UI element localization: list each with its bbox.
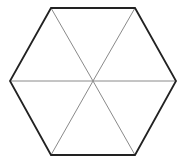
spoke-line-4 — [93, 81, 135, 155]
spoke-line-1 — [51, 8, 93, 81]
inner-spokes — [10, 8, 176, 155]
hexagon-diagram — [0, 0, 188, 163]
spoke-line-5 — [51, 81, 93, 155]
spoke-line-2 — [93, 8, 135, 81]
